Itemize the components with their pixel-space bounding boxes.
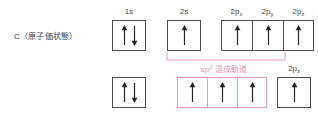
orbital-label-2px-sub: x [240, 11, 243, 17]
arrow-up-icon [219, 82, 226, 103]
orbital-label-2px-text: 2p [230, 7, 239, 16]
sp2-prefix: sp [201, 65, 210, 74]
hybridization-bracket [166, 51, 286, 63]
arrow-up-icon [265, 25, 272, 46]
sp2-text: 混成軌道 [215, 65, 247, 74]
electron-single-2pz-top [284, 21, 313, 50]
arrow-up-icon [181, 25, 188, 46]
electron-pair-1s [113, 21, 145, 50]
electron-single-sp2-3 [238, 78, 266, 107]
orbital-box-2py [252, 20, 283, 51]
electron-single-sp2-1 [178, 78, 207, 107]
electron-single-2s [168, 21, 200, 50]
orbital-label-1s: 1s [112, 7, 146, 16]
orbital-label-2px: 2px [221, 7, 252, 16]
arrow-up-icon [189, 82, 196, 103]
orbital-box-2px [221, 20, 252, 51]
electron-single-2px [222, 21, 252, 50]
arrow-down-icon [131, 25, 138, 46]
arrow-up-icon [121, 25, 128, 46]
species-label: C（原子価状態） [14, 30, 77, 41]
electron-single-sp2-2 [208, 78, 237, 107]
electron-single-2py [253, 21, 283, 50]
orbital-label-2pz-top: 2pz [283, 7, 314, 16]
orbital-label-2pz-top-text: 2p [292, 7, 301, 16]
electron-single-2pz-bottom [278, 78, 310, 107]
orbital-label-2pz-bottom: 2pz [277, 64, 311, 73]
orbital-box-2s [167, 20, 201, 51]
orbital-label-2py-sub: y [271, 11, 274, 17]
orbital-box-group-2p [221, 20, 314, 51]
orbital-box-1s-bottom [112, 77, 146, 108]
arrow-up-icon [121, 82, 128, 103]
orbital-diagram: C（原子価状態） 1s 2s 2px 2py 2pz [0, 0, 318, 116]
arrow-down-icon [131, 82, 138, 103]
orbital-label-2s-text: 2s [180, 7, 189, 16]
orbital-label-2pz-bottom-text: 2p [288, 64, 297, 73]
orbital-box-sp2-3 [237, 77, 267, 108]
orbital-box-group-sp2 [177, 77, 267, 108]
arrow-up-icon [291, 82, 298, 103]
orbital-box-2pz-top [283, 20, 314, 51]
orbital-label-2py: 2py [252, 7, 283, 16]
orbital-label-2s: 2s [167, 7, 201, 16]
arrow-up-icon [249, 82, 256, 103]
orbital-label-2pz-bottom-sub: z [297, 68, 300, 74]
arrow-up-icon [295, 25, 302, 46]
orbital-box-1s [112, 20, 146, 51]
orbital-box-sp2-2 [207, 77, 237, 108]
orbital-box-2pz-bottom [277, 77, 311, 108]
orbital-label-2pz-top-sub: z [302, 11, 305, 17]
orbital-label-1s-text: 1s [125, 7, 134, 16]
sp2-exponent: 2 [209, 64, 212, 70]
orbital-label-2py-text: 2p [261, 7, 270, 16]
arrow-up-icon [234, 25, 241, 46]
sp2-hybrid-annotation: sp2 混成軌道 [178, 63, 270, 74]
orbital-box-sp2-1 [177, 77, 207, 108]
electron-pair-1s-bottom [113, 78, 145, 107]
